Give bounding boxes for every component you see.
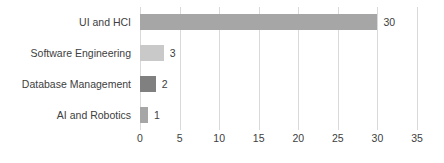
x-tick-label: 35	[411, 133, 423, 144]
x-tick-label: 0	[137, 133, 143, 144]
gridline-30	[377, 7, 378, 130]
x-tick-label: 5	[177, 133, 183, 144]
bar-value-label: 1	[154, 110, 160, 121]
bar-chart: UI and HCISoftware EngineeringDatabase M…	[0, 0, 444, 163]
plot-area: 30321	[140, 7, 417, 130]
bar-value-label: 3	[170, 48, 176, 59]
category-label: Database Management	[0, 79, 131, 90]
x-tick-label: 30	[372, 133, 384, 144]
x-tick-label: 15	[253, 133, 265, 144]
gridline-35	[417, 7, 418, 130]
category-label: AI and Robotics	[0, 110, 131, 121]
bar-value-label: 30	[383, 17, 395, 28]
bar[interactable]	[140, 45, 164, 61]
x-tick-label: 10	[213, 133, 225, 144]
category-axis: UI and HCISoftware EngineeringDatabase M…	[0, 0, 131, 163]
x-tick-label: 20	[292, 133, 304, 144]
bar[interactable]	[140, 76, 156, 92]
category-label: UI and HCI	[0, 17, 131, 28]
category-label: Software Engineering	[0, 48, 131, 59]
bar[interactable]	[140, 14, 377, 30]
bar[interactable]	[140, 107, 148, 123]
x-tick-label: 25	[332, 133, 344, 144]
bar-value-label: 2	[162, 79, 168, 90]
